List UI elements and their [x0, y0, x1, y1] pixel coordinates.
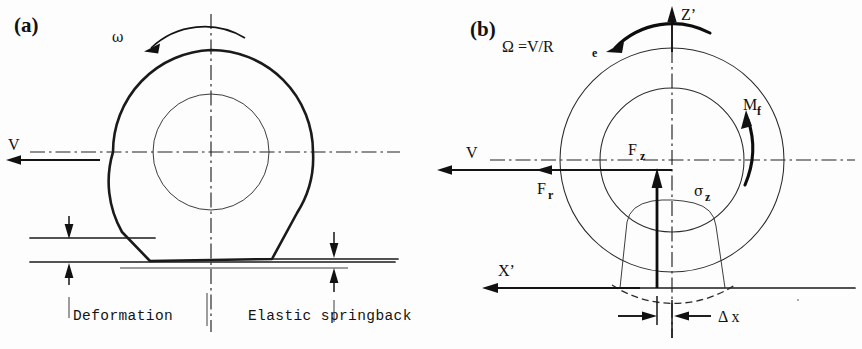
panel-b-moment-label: M [743, 96, 757, 113]
panel-a-velocity-label: V [8, 136, 20, 153]
panel-b-deltax-label: Δ x [718, 308, 739, 325]
panel-b-x-axis-arrowhead [482, 283, 498, 293]
panel-a-deformation-dim-arrow-upper [65, 224, 74, 239]
panel-b-z-axis-arrowhead [667, 6, 676, 22]
panel-b-deltax-arrowhead-left [642, 311, 657, 320]
figure-root: (a) V ω [0, 0, 862, 349]
panel-b-omega-arrowhead [606, 42, 624, 53]
panel-b-force-vertical-label: F [628, 141, 637, 158]
panel-b-fz-arrowhead [652, 168, 663, 188]
scan-artifact-dot [797, 299, 799, 301]
panel-b-moment-subscript: f [757, 104, 762, 118]
panel-b-pressure-label: σ [694, 183, 704, 199]
panel-a-deformation-label: Deformation [73, 308, 173, 324]
panel-a-springback-dim-arrow-lower [330, 268, 339, 283]
panel-b-omega-relation-subscript: e [592, 46, 598, 60]
panel-b-deltax-arrowhead-right [674, 311, 689, 320]
panel-b-omega-arc [615, 24, 710, 48]
panel-a-velocity-arrowhead [6, 155, 21, 165]
panel-b-z-axis-label: Z’ [681, 6, 696, 23]
panel-a-deformation-dim-arrow-lower [65, 263, 74, 278]
panel-a: (a) V ω [6, 13, 412, 332]
panel-b-fr-arrowhead [536, 165, 552, 175]
panel-b-force-vertical-subscript: z [640, 149, 646, 163]
panel-b-pressure-subscript: z [705, 190, 711, 204]
panel-b-force-rolling-label: F [537, 180, 546, 197]
technical-diagram: (a) V ω [0, 0, 862, 349]
panel-a-springback-dim-arrow-upper [330, 243, 339, 258]
panel-b-x-axis-label: X’ [498, 262, 515, 279]
panel-b-force-rolling-subscript: r [548, 188, 554, 202]
panel-b-omega-relation-label: Ω =V/R [502, 38, 554, 55]
panel-b-velocity-arrowhead [437, 165, 452, 175]
panel-a-omega-arrowhead [144, 44, 160, 54]
panel-b-velocity-label: V [466, 144, 478, 161]
panel-a-omega-label: ω [112, 29, 123, 45]
panel-b-tag: (b) [470, 17, 496, 41]
panel-b: (b) Z’ Ω =V/R e [437, 6, 855, 338]
panel-b-mf-arc [745, 120, 753, 185]
panel-a-tag: (a) [14, 13, 39, 37]
panel-a-omega-arc [151, 27, 245, 48]
panel-a-springback-label: Elastic springback [248, 308, 412, 324]
